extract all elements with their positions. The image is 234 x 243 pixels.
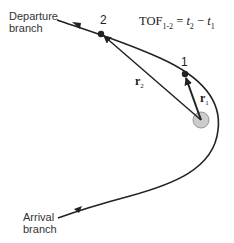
- departure-label-line2: branch: [9, 22, 58, 34]
- point-2-label: 2: [100, 13, 107, 27]
- orbit-diagram: [0, 0, 234, 243]
- arrival-label-line2: branch: [23, 223, 57, 235]
- departure-label-line1: Departure: [9, 10, 58, 22]
- r2-label: r2: [135, 74, 144, 90]
- r1-label: r1: [200, 91, 209, 107]
- r1-subscript: 1: [205, 99, 209, 107]
- t1-subscript: 1: [211, 22, 215, 31]
- tof-subscript: 1-2: [162, 22, 173, 31]
- point-2-marker: [98, 31, 104, 37]
- tof-equation: TOF1-2 = t2 − t1: [139, 14, 215, 31]
- minus-sign: −: [194, 14, 207, 28]
- departure-branch-label: Departure branch: [9, 10, 58, 34]
- point-1-marker: [182, 71, 188, 77]
- r2-subscript: 2: [140, 82, 144, 90]
- arrival-label-line1: Arrival: [23, 211, 57, 223]
- point-1-label: 1: [181, 55, 188, 69]
- arrival-branch-label: Arrival branch: [23, 211, 57, 235]
- tof-text: TOF: [139, 14, 162, 28]
- equals-sign: =: [173, 14, 186, 28]
